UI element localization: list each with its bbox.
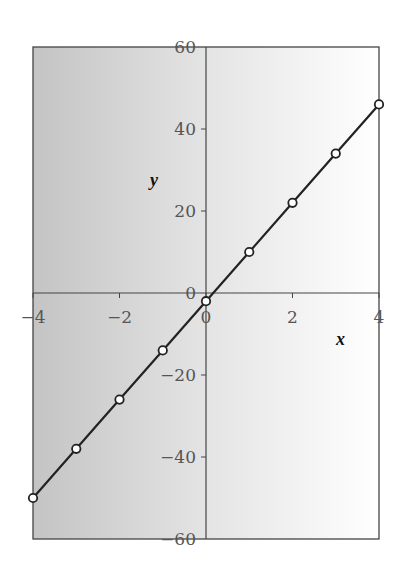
y-tick-label: −40	[160, 447, 196, 467]
x-tick-label: −4	[20, 307, 45, 327]
data-point	[202, 297, 210, 305]
line-chart: −4−2024−60−40−200204060 x y	[0, 0, 402, 569]
y-tick-label: 40	[174, 119, 196, 139]
data-point	[288, 199, 296, 207]
data-point	[375, 100, 383, 108]
x-tick-label: 4	[374, 307, 385, 327]
x-tick-label: 0	[201, 307, 212, 327]
data-point	[159, 346, 167, 354]
data-point	[245, 248, 253, 256]
y-axis-label: y	[148, 170, 159, 190]
x-tick-label: −2	[107, 307, 132, 327]
y-tick-label: −20	[160, 365, 196, 385]
y-tick-label: −60	[160, 529, 196, 549]
data-point	[72, 445, 80, 453]
y-tick-label: 20	[174, 201, 196, 221]
x-axis-label: x	[335, 329, 345, 349]
x-tick-label: 2	[287, 307, 298, 327]
data-point	[29, 494, 37, 502]
y-tick-label: 60	[174, 37, 196, 57]
y-tick-label: 0	[185, 283, 196, 303]
data-point	[332, 149, 340, 157]
data-point	[115, 395, 123, 403]
